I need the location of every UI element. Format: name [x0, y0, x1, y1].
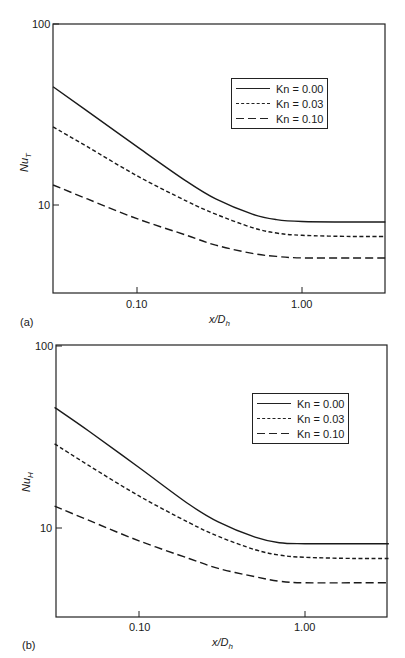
- chart-canvas: [0, 0, 405, 658]
- panel-label-b: (b): [22, 639, 35, 651]
- xtick-label-0.10-b: 0.10: [129, 621, 150, 633]
- ytick-label-100-b: 100: [35, 340, 53, 352]
- plot-frame-b: [56, 345, 387, 617]
- series-line-0.03-a: [53, 127, 385, 237]
- long-dash-swatch: [257, 433, 291, 435]
- xtick-label-1.00-a: 1.00: [291, 298, 312, 310]
- y-axis-label-a: NuT: [18, 153, 33, 172]
- legend-item-kn-0.10: Kn = 0.10: [257, 426, 344, 441]
- short-dash-swatch: [236, 103, 270, 104]
- legend-item-kn-0.03: Kn = 0.03: [236, 96, 323, 111]
- xtick-label-0.10-a: 0.10: [126, 298, 147, 310]
- xtick-label-1.00-b: 1.00: [294, 621, 315, 633]
- legend-item-kn-0.00: Kn = 0.00: [236, 81, 323, 96]
- series-line-0.00-a: [53, 87, 385, 222]
- ytick-label-10-b: 10: [40, 522, 52, 534]
- series-line-0.10-b: [55, 506, 389, 583]
- x-axis-label-a: x/Dh: [209, 313, 230, 328]
- legend-item-kn-0.03: Kn = 0.03: [257, 411, 344, 426]
- legend-b: Kn = 0.00 Kn = 0.03 Kn = 0.10: [252, 393, 349, 444]
- legend-a: Kn = 0.00 Kn = 0.03 Kn = 0.10: [231, 78, 328, 129]
- solid-line-swatch: [236, 88, 270, 89]
- short-dash-swatch: [257, 418, 291, 419]
- plot-frame-a: [53, 24, 385, 293]
- ytick-label-10-a: 10: [38, 199, 50, 211]
- solid-line-swatch: [257, 403, 291, 404]
- legend-item-kn-0.10: Kn = 0.10: [236, 111, 323, 126]
- y-axis-label-b: NuH: [20, 472, 35, 492]
- series-line-0.03-b: [55, 444, 389, 559]
- ytick-label-100-a: 100: [32, 18, 50, 30]
- long-dash-swatch: [236, 118, 270, 120]
- x-axis-label-b: x/Dh: [212, 636, 233, 651]
- legend-item-kn-0.00: Kn = 0.00: [257, 396, 344, 411]
- panel-label-a: (a): [20, 316, 33, 328]
